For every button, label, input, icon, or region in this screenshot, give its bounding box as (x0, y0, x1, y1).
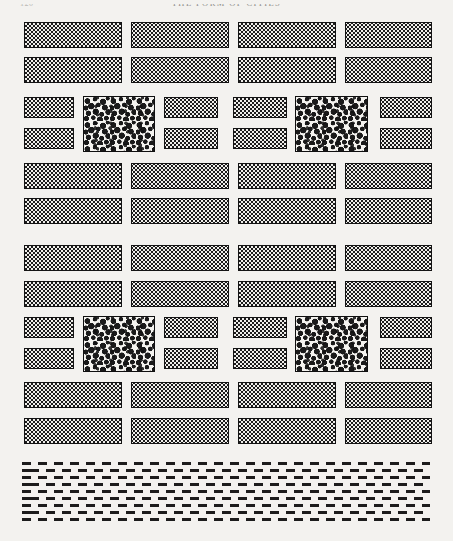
city-block-row-8-col-1 (24, 418, 122, 444)
city-block-row-5-col-1 (24, 245, 122, 271)
city-block-row-1-col-1 (24, 22, 122, 48)
city-block-row-5-col-4 (345, 245, 432, 271)
water-dash-row (22, 476, 430, 479)
city-block-row-7-col-1 (24, 382, 122, 408)
water-dash-row (22, 462, 430, 465)
park-upper-right (295, 96, 368, 152)
city-block-n-row-3-n-col-2 (164, 317, 218, 338)
city-block-row-6-col-4 (345, 281, 432, 307)
city-block-row-2-col-3 (238, 57, 336, 83)
water-dash-row (22, 490, 430, 493)
city-block-n-row-1-n-col-1 (24, 97, 74, 118)
city-block-n-row-4-n-col-4 (380, 348, 432, 369)
city-block-n-row-4-n-col-3 (233, 348, 287, 369)
water-dash-row (22, 497, 430, 500)
city-plan-figure (0, 0, 453, 541)
water-dash-row (22, 504, 430, 507)
city-block-row-8-col-2 (131, 418, 229, 444)
park-upper-left (83, 96, 155, 152)
city-block-row-6-col-1 (24, 281, 122, 307)
city-block-n-row-3-n-col-1 (24, 317, 74, 338)
city-block-row-2-col-1 (24, 57, 122, 83)
city-block-row-7-col-2 (131, 382, 229, 408)
city-block-row-6-col-2 (131, 281, 229, 307)
city-block-row-6-col-3 (238, 281, 336, 307)
park-lower-left (83, 316, 155, 372)
city-block-n-row-2-n-col-2 (164, 128, 218, 149)
river-water-body (22, 462, 430, 520)
city-block-row-8-col-4 (345, 418, 432, 444)
park-lower-right (295, 316, 368, 372)
city-block-row-3-col-4 (345, 163, 432, 189)
city-block-n-row-2-n-col-1 (24, 128, 74, 149)
water-dash-row (22, 469, 430, 472)
city-block-n-row-3-n-col-4 (380, 317, 432, 338)
city-block-row-4-col-4 (345, 198, 432, 224)
city-block-row-4-col-2 (131, 198, 229, 224)
city-block-row-8-col-3 (238, 418, 336, 444)
city-block-row-4-col-3 (238, 198, 336, 224)
city-block-n-row-1-n-col-3 (233, 97, 287, 118)
city-block-row-1-col-4 (345, 22, 432, 48)
city-block-row-7-col-4 (345, 382, 432, 408)
city-block-n-row-2-n-col-3 (233, 128, 287, 149)
city-block-n-row-1-n-col-4 (380, 97, 432, 118)
scanned-book-page: 120 THE FORM OF CITIES (0, 0, 453, 541)
city-block-n-row-1-n-col-2 (164, 97, 218, 118)
city-block-n-row-4-n-col-1 (24, 348, 74, 369)
city-block-row-3-col-2 (131, 163, 229, 189)
city-block-row-2-col-4 (345, 57, 432, 83)
city-block-row-7-col-3 (238, 382, 336, 408)
city-block-row-1-col-2 (131, 22, 229, 48)
water-dash-row (22, 483, 430, 486)
city-block-row-3-col-1 (24, 163, 122, 189)
city-block-row-1-col-3 (238, 22, 336, 48)
city-block-n-row-4-n-col-2 (164, 348, 218, 369)
water-dash-row (22, 518, 430, 521)
water-dash-row (22, 511, 430, 514)
city-block-row-4-col-1 (24, 198, 122, 224)
city-block-n-row-3-n-col-3 (233, 317, 287, 338)
city-block-row-2-col-2 (131, 57, 229, 83)
city-block-row-5-col-3 (238, 245, 336, 271)
city-block-row-3-col-3 (238, 163, 336, 189)
city-block-n-row-2-n-col-4 (380, 128, 432, 149)
city-block-row-5-col-2 (131, 245, 229, 271)
